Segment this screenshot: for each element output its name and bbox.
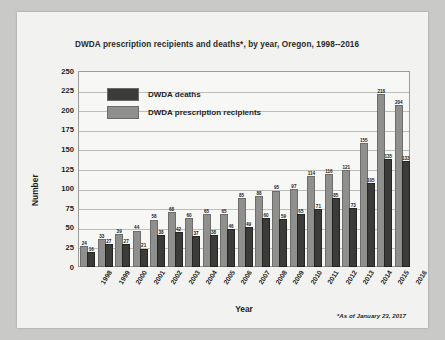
y-tick-label: 0 <box>48 263 74 272</box>
y-tick-label: 125 <box>48 165 74 174</box>
y-axis-ticks: Number 0255075100125150175200225250 <box>44 71 74 267</box>
bar-value-label: 58 <box>152 215 157 220</box>
x-tick-label: 2012 <box>344 269 358 286</box>
y-tick-label: 75 <box>48 204 74 213</box>
bar-value-label: 105 <box>367 179 375 184</box>
bar-group: 9559 <box>272 71 285 267</box>
bar-value-label: 60 <box>263 214 268 219</box>
bar-value-label: 133 <box>402 157 410 162</box>
bar-value-label: 65 <box>298 210 303 215</box>
bar-group: 2416 <box>80 71 93 267</box>
bar-value-label: 16 <box>89 248 94 253</box>
bar-group: 11685 <box>325 71 338 267</box>
bar-value-label: 135 <box>384 155 392 160</box>
legend-label-deaths: DWDA deaths <box>148 90 201 99</box>
y-tick-label: 25 <box>48 243 74 252</box>
bar-deaths: 27 <box>122 244 130 267</box>
bar-deaths: 16 <box>87 252 95 267</box>
y-tick-label: 50 <box>48 223 74 232</box>
bar-value-label: 85 <box>333 194 338 199</box>
bar-value-label: 27 <box>124 240 129 245</box>
bar-value-label: 42 <box>176 228 181 233</box>
x-tick-label: 2001 <box>152 269 166 286</box>
bar-value-label: 60 <box>187 214 192 219</box>
bar-deaths: 60 <box>262 218 270 267</box>
x-tick-label: 2005 <box>222 269 236 286</box>
bar-deaths: 65 <box>297 214 305 267</box>
x-tick-label: 2009 <box>292 269 306 286</box>
x-tick-label: 2002 <box>169 269 183 286</box>
bar-group: 12173 <box>342 71 355 267</box>
y-axis-title: Number <box>30 174 40 206</box>
bar-value-label: 68 <box>169 208 174 213</box>
bar-value-label: 97 <box>291 185 296 190</box>
bar-value-label: 71 <box>316 205 321 210</box>
bar-deaths: 85 <box>332 198 340 267</box>
chart-legend: DWDA deaths DWDA prescription recipients <box>107 88 261 124</box>
bar-value-label: 21 <box>141 244 146 249</box>
legend-label-recipients: DWDA prescription recipients <box>148 108 261 117</box>
x-tick-label: 2004 <box>204 269 218 286</box>
bar-value-label: 44 <box>134 226 139 231</box>
bar-value-label: 65 <box>221 210 226 215</box>
bar-value-label: 88 <box>256 192 261 197</box>
bar-value-label: 85 <box>239 194 244 199</box>
bar-deaths: 73 <box>349 208 357 267</box>
bar-value-label: 24 <box>82 242 87 247</box>
bar-value-label: 218 <box>377 90 385 95</box>
x-tick-label: 2011 <box>326 269 340 285</box>
bar-value-label: 27 <box>106 240 111 245</box>
bar-deaths: 37 <box>192 236 200 267</box>
bar-group: 204133 <box>395 71 408 267</box>
bar-value-label: 33 <box>99 235 104 240</box>
bar-group: 155105 <box>360 71 373 267</box>
bar-value-label: 114 <box>308 172 315 177</box>
x-tick-label: 2003 <box>187 269 201 286</box>
bar-value-label: 73 <box>351 204 356 209</box>
x-tick-label: 2014 <box>379 269 393 286</box>
x-tick-label: 2008 <box>274 269 288 286</box>
x-tick-label: 2010 <box>309 269 323 286</box>
bar-value-label: 38 <box>159 231 164 236</box>
bar-value-label: 38 <box>211 231 216 236</box>
legend-item-deaths: DWDA deaths <box>107 88 261 101</box>
y-tick-label: 100 <box>48 184 74 193</box>
bar-value-label: 49 <box>246 223 251 228</box>
bar-group: 11471 <box>307 71 320 267</box>
legend-item-recipients: DWDA prescription recipients <box>107 106 261 119</box>
bar-value-label: 155 <box>360 139 368 144</box>
bar-deaths: 21 <box>140 249 148 267</box>
x-tick-label: 2000 <box>134 269 148 286</box>
bar-deaths: 133 <box>402 161 410 267</box>
x-tick-label: 2013 <box>361 269 375 286</box>
bar-value-label: 204 <box>395 101 403 106</box>
y-tick-label: 200 <box>48 106 74 115</box>
chart-page: DWDA prescription recipients and deaths*… <box>0 0 445 340</box>
bar-deaths: 38 <box>157 235 165 267</box>
bar-deaths: 46 <box>227 229 235 267</box>
bar-value-label: 95 <box>274 186 279 191</box>
y-tick-label: 250 <box>48 67 74 76</box>
bar-deaths: 135 <box>384 159 392 267</box>
bar-value-label: 46 <box>228 225 233 230</box>
bar-group: 9765 <box>290 71 303 267</box>
bar-value-label: 59 <box>281 215 286 220</box>
x-tick-label: 1998 <box>99 269 113 286</box>
x-tick-label: 2016 <box>414 269 428 286</box>
chart-card: DWDA prescription recipients and deaths*… <box>17 12 428 328</box>
bar-value-label: 116 <box>325 170 332 175</box>
chart-title: DWDA prescription recipients and deaths*… <box>75 40 359 49</box>
x-tick-label: 2007 <box>257 269 271 286</box>
legend-swatch-deaths <box>107 88 139 101</box>
legend-swatch-recipients <box>107 106 139 119</box>
x-tick-label: 1999 <box>117 269 131 286</box>
bar-deaths: 71 <box>314 209 322 267</box>
y-tick-label: 175 <box>48 125 74 134</box>
bar-value-label: 121 <box>342 166 350 171</box>
chart-footnote: *As of January 23, 2017 <box>337 312 406 319</box>
bar-deaths: 59 <box>279 219 287 267</box>
bar-deaths: 38 <box>210 235 218 267</box>
x-tick-label: 2015 <box>396 269 410 286</box>
bar-value-label: 39 <box>117 230 122 235</box>
bar-group: 218135 <box>377 71 390 267</box>
